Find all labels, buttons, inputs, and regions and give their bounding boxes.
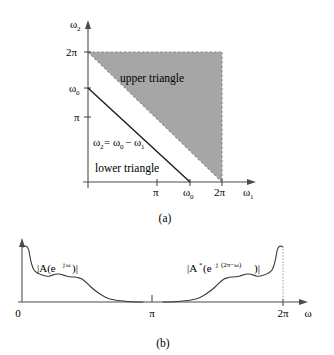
figure-container: ω 2 ω 1 2π ω 0 π π ω 0 2π upper triangle… xyxy=(0,0,334,355)
panel-b-x-axis-arrow xyxy=(299,299,308,305)
right-label-close: )| xyxy=(254,262,260,275)
left-label-exp-j: j xyxy=(62,261,65,269)
panel-b-x-axis-label: ω xyxy=(304,307,311,319)
left-label-close: )| xyxy=(72,262,78,275)
panel-a-y-axis-arrow xyxy=(85,20,91,29)
right-label-exp-rest: (2π−ω) xyxy=(221,261,242,269)
right-spectrum-curve xyxy=(163,246,283,302)
left-label-open: |A(e xyxy=(37,262,56,275)
right-curve-label: |A * (e j (2π−ω) )| xyxy=(187,261,260,275)
left-curve-label: |A(e j ω )| xyxy=(37,261,78,275)
panel-a-triangles-plot: ω 2 ω 1 2π ω 0 π π ω 0 2π upper triangle… xyxy=(0,0,334,232)
y-tick-label-pi: π xyxy=(74,111,80,123)
eq-omega1-sub: 1 xyxy=(141,143,145,151)
panel-a-caption: (a) xyxy=(159,212,172,225)
panel-a-y-axis-label-sub: 2 xyxy=(77,25,81,33)
x-tick-label-2pi: 2π xyxy=(214,186,226,198)
right-label-exp-j: j xyxy=(215,261,218,269)
panel-b-x-tick-label-0: 0 xyxy=(15,307,21,319)
upper-triangle-label: upper triangle xyxy=(120,72,184,85)
eq-minus: − xyxy=(125,136,131,148)
left-spectrum-curve xyxy=(23,246,143,302)
right-label-open: |A xyxy=(187,262,197,274)
lower-triangle-label: lower triangle xyxy=(95,162,159,175)
left-label-exp-omega: ω xyxy=(66,261,71,269)
panel-a-x-axis-arrow xyxy=(247,179,256,185)
panel-b-spectrum-plot: |A(e j ω )| |A * (e j (2π−ω) )| 0 π 2π ω… xyxy=(0,232,334,355)
eq-omega0-sub: 0 xyxy=(120,143,124,151)
right-label-paren: (e xyxy=(203,262,212,275)
panel-b-y-axis-arrow xyxy=(19,238,25,247)
x-tick-label-omega0-sub: 0 xyxy=(190,193,194,201)
panel-b-caption: (b) xyxy=(156,337,170,350)
y-tick-label-2pi: 2π xyxy=(66,46,78,58)
omega-sum-equation-label: ω 2 = ω 0 − ω 1 xyxy=(93,136,145,151)
x-tick-label-pi: π xyxy=(153,186,159,198)
y-tick-label-omega0-sub: 0 xyxy=(76,89,80,97)
panel-b-x-tick-label-pi: π xyxy=(149,307,155,319)
eq-equals: = xyxy=(104,136,110,148)
panel-a-x-axis-label-sub: 1 xyxy=(250,193,254,201)
panel-b-x-tick-label-2pi: 2π xyxy=(277,307,289,319)
